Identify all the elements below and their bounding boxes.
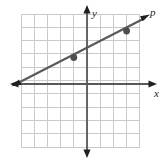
- line-label-p: p: [149, 6, 156, 18]
- coordinate-plane-svg: y x p: [0, 0, 165, 162]
- data-point-marker: [70, 54, 77, 61]
- x-axis-label: x: [153, 87, 159, 99]
- y-axis-label: y: [91, 7, 97, 19]
- graph-figure: y x p: [0, 0, 165, 162]
- data-point-marker: [123, 28, 130, 35]
